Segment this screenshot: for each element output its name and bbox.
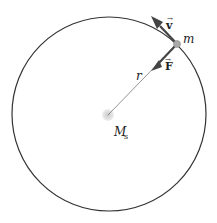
vector-arrow-icon: → — [165, 56, 171, 64]
orbiting-mass — [174, 41, 181, 48]
svg-text:s: s — [124, 132, 128, 141]
orbit-diagram: v → m F → r M s — [0, 0, 217, 223]
force-arrow — [151, 44, 177, 71]
velocity-arrow — [151, 16, 177, 44]
orbiting-body-label: m — [183, 32, 194, 46]
vector-arrow-icon: → — [167, 15, 173, 23]
force-label: F → — [165, 56, 173, 73]
velocity-label: v → — [165, 15, 173, 32]
central-body-label: M s — [113, 125, 128, 141]
radius-label: r — [136, 69, 143, 83]
